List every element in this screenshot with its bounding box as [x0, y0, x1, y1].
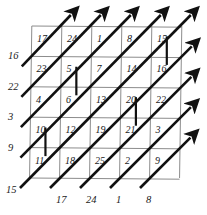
left-edge-label: 22	[8, 82, 19, 93]
cell-label: 19	[96, 125, 106, 135]
cell-label: 8	[127, 34, 132, 44]
diagram-svg	[0, 0, 207, 215]
cell-label: 21	[126, 125, 136, 135]
bottom-edge-label: 17	[56, 195, 67, 206]
grid-vline	[180, 26, 182, 178]
cell-label: 5	[66, 64, 71, 74]
bottom-edge-label: 24	[86, 195, 97, 206]
left-edge-label: 3	[8, 112, 13, 123]
cell-label: 14	[126, 64, 136, 74]
cell-label: 3	[156, 125, 161, 135]
cell-label: 23	[36, 64, 46, 74]
cell-label: 10	[36, 125, 46, 135]
cell-label: 18	[65, 156, 75, 166]
grid-hline	[32, 26, 182, 27]
cell-label: 4	[36, 95, 41, 105]
bottom-edge-label: 1	[116, 195, 121, 206]
cell-label: 11	[35, 156, 44, 166]
cell-label: 16	[156, 64, 166, 74]
cell-label: 6	[66, 95, 71, 105]
figure-canvas: 1724181523571416461320221012192131118252…	[0, 0, 207, 215]
cell-label: 25	[95, 156, 105, 166]
grid-hline	[31, 56, 181, 57]
grid-vline	[60, 26, 62, 178]
cell-label: 17	[37, 34, 47, 44]
grid-hline	[30, 148, 180, 149]
left-edge-label: 15	[6, 185, 17, 196]
left-edge-label: 16	[8, 51, 19, 62]
cell-label: 13	[96, 95, 106, 105]
grid-vline	[90, 26, 92, 178]
grid-vline	[30, 26, 32, 178]
grid-hline	[31, 87, 181, 88]
grid-hline	[30, 178, 180, 179]
cell-label: 7	[96, 64, 101, 74]
cell-label: 9	[155, 156, 160, 166]
diagonal-arrow	[140, 138, 190, 188]
cell-label: 15	[157, 34, 167, 44]
cell-label: 12	[66, 125, 76, 135]
cell-label: 20	[126, 95, 136, 105]
cell-label: 1	[97, 34, 102, 44]
grid-hline	[30, 117, 180, 118]
cell-label: 22	[156, 95, 166, 105]
cell-label: 2	[125, 156, 130, 166]
bottom-edge-label: 8	[146, 195, 151, 206]
grid-vline	[120, 26, 122, 178]
left-edge-label: 9	[8, 143, 13, 154]
grid-vline	[150, 26, 152, 178]
cell-label: 24	[67, 34, 77, 44]
